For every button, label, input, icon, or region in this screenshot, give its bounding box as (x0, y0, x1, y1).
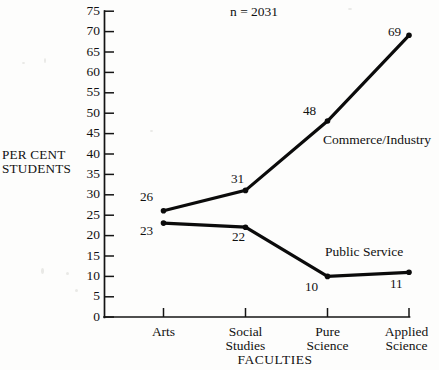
series-line-commerce-industry (164, 35, 410, 211)
y-tick-label: 65 (76, 45, 100, 59)
x-tick-marks (164, 308, 410, 317)
y-tick-label: 20 (76, 228, 100, 242)
point-label-commerce-applied-science: 69 (388, 25, 401, 39)
point-label-commerce-social-studies: 31 (231, 172, 244, 186)
series-label-public-service: Public Service (325, 245, 403, 259)
y-tick-label: 70 (76, 24, 100, 38)
y-tick-label: 35 (76, 167, 100, 181)
x-tick-label-arts: Arts (133, 325, 194, 339)
y-tick-label: 10 (76, 269, 100, 283)
y-tick-label: 30 (76, 187, 100, 201)
point-label-commerce-arts: 26 (140, 190, 153, 204)
y-tick-label: 50 (76, 106, 100, 120)
series-points-commerce-industry (161, 33, 412, 214)
y-tick-label: 0 (76, 310, 100, 324)
point-label-public-pure-science: 10 (305, 280, 318, 294)
y-tick-label: 15 (76, 249, 100, 263)
series-label-commerce-industry: Commerce/Industry (323, 133, 431, 147)
line-chart: 75 70 65 60 55 50 45 40 35 30 25 20 15 1… (0, 0, 439, 370)
y-tick-label: 40 (76, 147, 100, 161)
y-axis-title-line2: STUDENTS (2, 162, 71, 176)
point-label-public-applied-science: 11 (390, 277, 403, 291)
point-label-commerce-pure-science: 48 (303, 104, 316, 118)
x-axis-title: FACULTIES (215, 353, 335, 367)
y-tick-marks (104, 11, 114, 317)
chart-canvas (0, 0, 439, 370)
y-tick-label: 55 (76, 85, 100, 99)
y-tick-label: 25 (76, 208, 100, 222)
y-tick-label: 5 (76, 289, 100, 303)
point-label-public-arts: 23 (140, 224, 153, 238)
y-tick-label: 75 (76, 4, 100, 18)
y-tick-label: 60 (76, 65, 100, 79)
y-axis-title-line1: PER CENT (2, 148, 66, 162)
y-tick-label: 45 (76, 126, 100, 140)
x-tick-label-applied-science-line2: Science (376, 339, 437, 353)
sample-size-annotation: n = 2031 (230, 5, 278, 19)
point-label-public-social-studies: 22 (232, 230, 245, 244)
